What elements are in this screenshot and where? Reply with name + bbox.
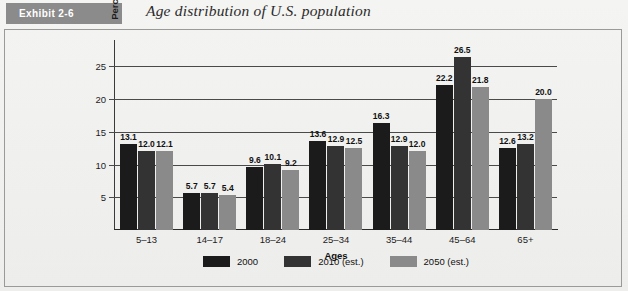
y-axis-tick-label: 20: [95, 94, 106, 105]
bar: 20.0: [535, 99, 552, 230]
bar-value-label: 16.3: [373, 111, 390, 121]
bar-value-label: 9.2: [285, 158, 297, 168]
bar: 12.0: [138, 151, 155, 230]
bar-group: 9.610.19.2: [241, 50, 304, 230]
bar: 5.7: [183, 193, 200, 230]
bar-value-label: 12.5: [346, 136, 363, 146]
x-axis-tick-label: 18–24: [260, 234, 286, 245]
bar: 12.9: [327, 146, 344, 230]
bar-value-label: 12.6: [499, 136, 516, 146]
bar: 13.1: [120, 144, 137, 230]
bar-value-label: 12.0: [138, 139, 155, 149]
x-axis-tick-label: 65+: [517, 234, 533, 245]
chart-legend: 20002010 (est.)2050 (est.): [115, 252, 557, 270]
bar-value-label: 12.1: [156, 139, 173, 149]
exhibit-number-tab: Exhibit 2-6: [6, 3, 122, 24]
exhibit-page: Exhibit 2-6 Age distribution of U.S. pop…: [0, 0, 628, 291]
legend-item: 2000: [203, 256, 258, 267]
bar-value-label: 10.1: [265, 152, 282, 162]
page-title: Age distribution of U.S. population: [146, 2, 371, 20]
x-axis-tick-label: 25–34: [323, 234, 349, 245]
bar: 12.0: [409, 151, 426, 230]
legend-label: 2010 (est.): [318, 256, 363, 267]
y-axis-tick-label: 5: [101, 192, 106, 203]
bar-group: 13.612.912.5: [304, 50, 367, 230]
bar-value-label: 5.4: [222, 183, 234, 193]
y-axis-tick-label: 25: [95, 61, 106, 72]
exhibit-header: Exhibit 2-6 Age distribution of U.S. pop…: [0, 0, 628, 27]
bar-value-label: 13.1: [120, 132, 137, 142]
chart-figure: Percent of population 510152025 13.112.0…: [4, 29, 622, 287]
legend-color-swatch: [390, 256, 417, 267]
exhibit-number-label: Exhibit 2-6: [6, 8, 74, 19]
x-axis-tick-label: 45–64: [449, 234, 475, 245]
bar-group: 13.112.012.1: [115, 50, 178, 230]
x-axis-tick-label: 14–17: [196, 234, 222, 245]
bar-value-label: 12.9: [328, 134, 345, 144]
bar: 13.6: [309, 141, 326, 230]
y-axis-tick-label: 10: [95, 159, 106, 170]
bar: 5.7: [201, 193, 218, 230]
legend-item: 2010 (est.): [284, 256, 363, 267]
y-axis-title: Percent of population: [109, 0, 123, 56]
bar-value-label: 21.8: [472, 75, 489, 85]
legend-label: 2050 (est.): [424, 256, 469, 267]
plot-area: Percent of population 510152025 13.112.0…: [115, 50, 557, 230]
bar-value-label: 13.2: [517, 132, 534, 142]
bar-value-label: 12.9: [391, 134, 408, 144]
y-axis-tick-label: 15: [95, 126, 106, 137]
bar-value-label: 12.0: [409, 139, 426, 149]
bar-value-label: 5.7: [204, 181, 216, 191]
legend-color-swatch: [284, 256, 311, 267]
legend-color-swatch: [203, 256, 230, 267]
bar: 12.9: [391, 146, 408, 230]
bar-value-label: 13.6: [310, 129, 327, 139]
bar: 16.3: [373, 123, 390, 230]
x-axis-tick-label: 35–44: [386, 234, 412, 245]
bar-value-label: 5.7: [186, 181, 198, 191]
bar-series-container: 13.112.012.15.75.75.49.610.19.213.612.91…: [115, 50, 557, 230]
bar-value-label: 26.5: [454, 45, 471, 55]
bar-group: 22.226.521.8: [431, 50, 494, 230]
legend-item: 2050 (est.): [390, 256, 469, 267]
bar-group: 5.75.75.4: [178, 50, 241, 230]
bar: 12.1: [156, 151, 173, 230]
bar: 21.8: [472, 87, 489, 230]
bar: 12.6: [499, 148, 516, 230]
bar-value-label: 20.0: [535, 87, 552, 97]
bar: 9.2: [282, 170, 299, 230]
bar: 12.5: [345, 148, 362, 230]
x-axis-tick-label: 5–13: [136, 234, 157, 245]
bar: 22.2: [436, 85, 453, 230]
bar: 5.4: [219, 195, 236, 230]
bar-group: 16.312.912.0: [368, 50, 431, 230]
legend-label: 2000: [237, 256, 258, 267]
bar-group: 12.613.220.0: [494, 50, 557, 230]
bar-value-label: 9.6: [249, 155, 261, 165]
bar-value-label: 22.2: [436, 73, 453, 83]
bar: 10.1: [264, 164, 281, 230]
bar: 13.2: [517, 144, 534, 230]
bar: 26.5: [454, 57, 471, 230]
bar: 9.6: [246, 167, 263, 230]
